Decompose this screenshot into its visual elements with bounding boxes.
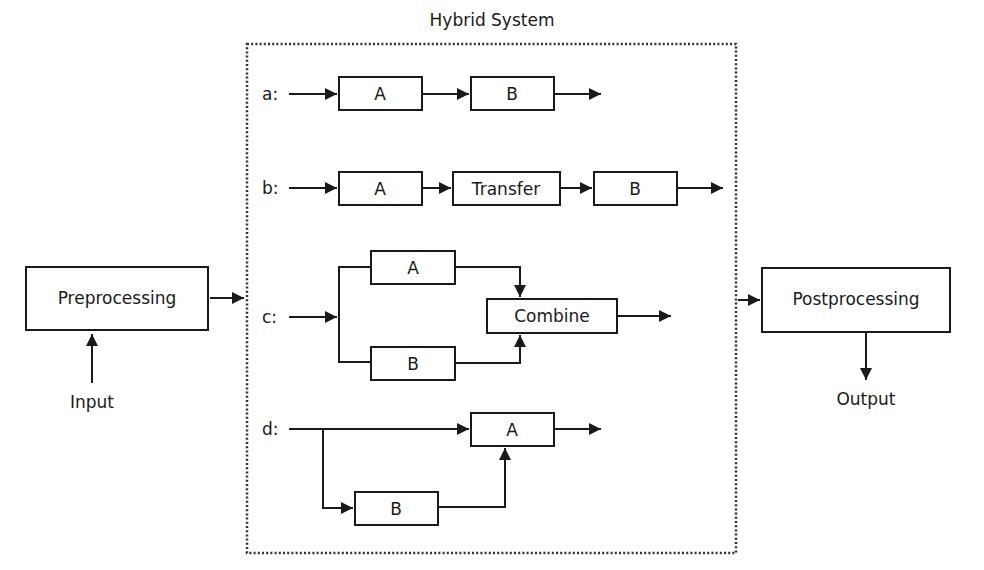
postprocessing-label: Postprocessing <box>792 289 919 309</box>
preprocessing-label: Preprocessing <box>58 288 177 308</box>
row-b-box-b-label: B <box>629 179 641 199</box>
row-c-box-b-label: B <box>407 354 419 374</box>
row-a-box-a-label: A <box>374 84 386 104</box>
output-label: Output <box>836 389 895 409</box>
row-c-b-to-combine-arrow <box>455 335 520 363</box>
row-a-label: a: <box>262 84 278 104</box>
row-a: a: A B <box>262 77 601 110</box>
row-c-box-combine-label: Combine <box>514 306 590 326</box>
hybrid-system-diagram: Hybrid System Preprocessing Input Postpr… <box>0 0 984 570</box>
row-c: c: A B Combine <box>262 251 671 380</box>
row-d-box-b-label: B <box>390 499 402 519</box>
row-b-label: b: <box>262 178 279 198</box>
row-b-box-transfer-label: Transfer <box>471 179 540 199</box>
diagram-title: Hybrid System <box>430 10 555 30</box>
preprocessing-block: Preprocessing Input <box>26 267 244 412</box>
row-d-box-a-label: A <box>506 420 518 440</box>
row-b: b: A Transfer B <box>262 172 723 205</box>
row-d: d: A B <box>262 413 601 525</box>
row-d-branch-arrow <box>323 429 353 508</box>
row-d-label: d: <box>262 419 279 439</box>
row-c-a-to-combine-arrow <box>455 267 520 297</box>
row-c-label: c: <box>262 307 277 327</box>
row-b-box-a-label: A <box>374 179 386 199</box>
row-a-box-b-label: B <box>506 84 518 104</box>
row-c-split-connector <box>339 267 371 362</box>
row-d-b-to-a-arrow <box>438 448 505 507</box>
input-label: Input <box>70 392 114 412</box>
postprocessing-block: Postprocessing Output <box>738 268 950 409</box>
row-c-box-a-label: A <box>407 258 419 278</box>
